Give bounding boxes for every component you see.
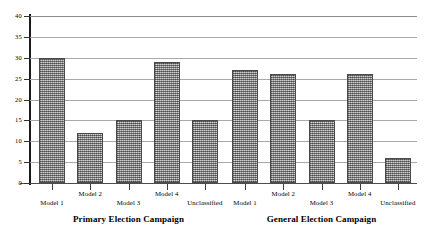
x-axis-label-model-4: Model 4 (348, 190, 372, 198)
gridline-35 (30, 37, 417, 38)
panel-caption-1: Primary Election Campaign (73, 214, 184, 225)
y-tick-mark-5 (24, 162, 30, 163)
y-tick-label-35: 35 (0, 33, 22, 40)
y-tick-label-25: 25 (0, 75, 22, 82)
y-tick-mark-40 (24, 16, 30, 17)
x-tick-mark (52, 184, 53, 190)
x-tick-mark (205, 184, 206, 190)
x-axis-label-model-3: Model 3 (117, 199, 141, 207)
x-tick-mark (398, 184, 399, 190)
x-axis-label-model-4: Model 4 (155, 190, 179, 198)
y-tick-mark-25 (24, 79, 30, 80)
x-axis-line (20, 183, 417, 184)
y-tick-label-20: 20 (0, 96, 22, 103)
bar-panel1-model-4 (154, 62, 180, 183)
x-tick-mark (322, 184, 323, 190)
x-axis-label-unclassified: Unclassified (380, 199, 415, 207)
bar-panel2-unclassified (385, 158, 411, 183)
bar-panel2-model-1 (232, 70, 258, 183)
bar-panel1-model-3 (116, 120, 142, 183)
bar-panel2-model-4 (347, 74, 373, 183)
y-tick-mark-30 (24, 58, 30, 59)
x-axis-label-model-1: Model 1 (40, 199, 64, 207)
y-tick-label-15: 15 (0, 116, 22, 123)
x-axis-label-model-1: Model 1 (233, 199, 257, 207)
bar-panel2-model-2 (270, 74, 296, 183)
x-axis-label-model-2: Model 2 (79, 190, 103, 198)
panel-caption-2: General Election Campaign (267, 214, 377, 225)
x-axis-label-model-3: Model 3 (310, 199, 334, 207)
y-tick-mark-20 (24, 100, 30, 101)
y-tick-label-0: 0 (0, 179, 22, 186)
bar-panel1-model-2 (77, 133, 103, 183)
x-axis-label-model-2: Model 2 (272, 190, 296, 198)
gridline-40 (30, 16, 417, 17)
bar-panel1-unclassified (192, 120, 218, 183)
y-tick-mark-0 (24, 183, 30, 184)
y-tick-label-10: 10 (0, 137, 22, 144)
y-tick-label-5: 5 (0, 158, 22, 165)
y-tick-mark-35 (24, 37, 30, 38)
x-tick-mark (129, 184, 130, 190)
y-tick-mark-10 (24, 141, 30, 142)
x-tick-mark (245, 184, 246, 190)
y-tick-mark-15 (24, 120, 30, 121)
y-tick-label-40: 40 (0, 12, 22, 19)
bar-panel2-model-3 (309, 120, 335, 183)
bar-panel1-model-1 (39, 58, 65, 183)
bar-chart-figure: 0510152025303540 Model 1Model 2Model 3Mo… (0, 0, 425, 235)
x-axis-label-unclassified: Unclassified (187, 199, 222, 207)
gridline-30 (30, 58, 417, 59)
y-tick-label-30: 30 (0, 54, 22, 61)
